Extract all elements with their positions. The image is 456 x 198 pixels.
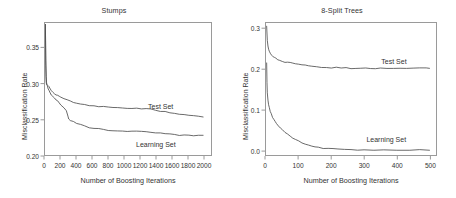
- y-tick-label-left-0: 0.20: [14, 153, 39, 160]
- plot-area-right: [265, 22, 437, 156]
- chart-panel-8-split-trees: 8-Split Trees Misclassification Rate Num…: [228, 0, 456, 198]
- annotation-test-set-left: Test Set: [148, 103, 173, 110]
- x-tick-label-right-5: 500: [418, 162, 442, 169]
- x-tick-label-left-10: 2000: [192, 162, 216, 169]
- panel-title-right: 8-Split Trees: [228, 6, 456, 15]
- curve-test-set-left: [45, 24, 203, 117]
- plot-curves-right: [266, 23, 436, 155]
- y-tick-label-left-1: 0.25: [14, 116, 39, 123]
- x-axis-label-left: Number of Boosting Iterations: [44, 176, 212, 185]
- x-tick-label-right-4: 400: [385, 162, 409, 169]
- curve-learning-set-left: [45, 24, 203, 135]
- plot-curves-left: [45, 23, 211, 155]
- y-tick-label-right-0: 0.0: [236, 148, 260, 155]
- x-tick-label-right-2: 200: [319, 162, 343, 169]
- x-axis-label-right: Number of Boosting Iterations: [265, 176, 437, 185]
- chart-panel-stumps: Stumps Misclassification Rate Number of …: [0, 0, 228, 198]
- y-tick-label-right-3: 0.3: [236, 25, 260, 32]
- annotation-learning-set-left: Learning Set: [136, 141, 176, 148]
- y-tick-label-right-1: 0.1: [236, 107, 260, 114]
- y-tick-label-left-2: 0.30: [14, 80, 39, 87]
- annotation-learning-set-right: Learning Set: [366, 136, 406, 143]
- annotation-test-set-right: Test Set: [381, 58, 406, 65]
- panel-title-left: Stumps: [0, 6, 228, 15]
- x-tick-label-right-1: 100: [286, 162, 310, 169]
- y-tick-label-left-3: 0.35: [14, 44, 39, 51]
- plot-area-left: [44, 22, 212, 156]
- y-tick-label-right-2: 0.2: [236, 66, 260, 73]
- x-tick-label-right-0: 0: [253, 162, 277, 169]
- x-tick-label-right-3: 300: [352, 162, 376, 169]
- figure-canvas: Stumps Misclassification Rate Number of …: [0, 0, 456, 198]
